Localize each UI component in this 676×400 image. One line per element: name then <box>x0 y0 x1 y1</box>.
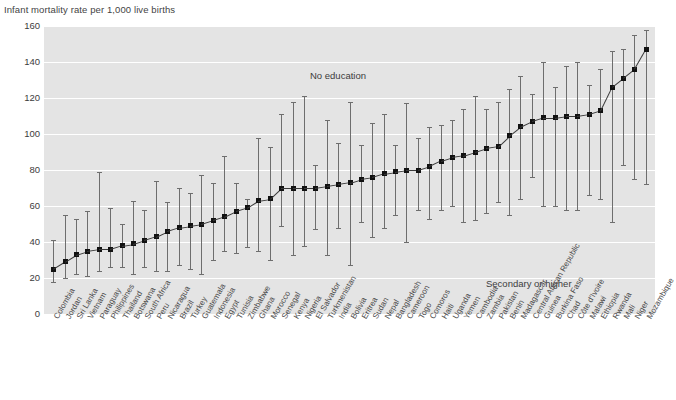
error-bar-cap <box>199 175 204 176</box>
error-bar-cap <box>450 120 455 121</box>
error-bar-cap <box>450 206 455 207</box>
error-bar-cap <box>427 219 432 220</box>
error-bar-cap <box>313 229 318 230</box>
error-bar-cap <box>85 211 90 212</box>
error-bar-cap <box>325 255 330 256</box>
y-tick-label: 40 <box>2 236 40 247</box>
error-bar-cap <box>518 76 523 77</box>
error-bar-cap <box>51 240 56 241</box>
error-bar <box>76 219 77 275</box>
error-bar <box>304 96 305 245</box>
error-bar-cap <box>507 89 512 90</box>
error-bar-cap <box>177 265 182 266</box>
error-bar-cap <box>370 237 375 238</box>
error-bar-cap <box>256 138 261 139</box>
error-bar-cap <box>108 267 113 268</box>
error-bar-cap <box>142 210 147 211</box>
y-tick-label: 80 <box>2 164 40 175</box>
error-bar-cap <box>177 188 182 189</box>
error-bar-cap <box>530 94 535 95</box>
error-bar-cap <box>610 222 615 223</box>
error-bar-cap <box>131 274 136 275</box>
error-bar <box>429 127 430 219</box>
error-bar <box>463 109 464 222</box>
error-bar <box>475 96 476 220</box>
error-bar-cap <box>302 96 307 97</box>
error-bar-cap <box>439 125 444 126</box>
error-bar-cap <box>188 269 193 270</box>
error-bar-cap <box>268 147 273 148</box>
error-bar <box>99 172 100 271</box>
error-bar-cap <box>587 195 592 196</box>
error-bar-cap <box>496 202 501 203</box>
error-bar-cap <box>439 210 444 211</box>
error-bar-cap <box>268 260 273 261</box>
error-bar-cap <box>473 220 478 221</box>
error-bar <box>532 94 533 177</box>
error-bar <box>452 120 453 206</box>
error-bar <box>258 138 259 251</box>
error-bar-cap <box>291 102 296 103</box>
error-bar-cap <box>370 123 375 124</box>
error-bar-cap <box>518 199 523 200</box>
error-bar <box>418 138 419 210</box>
y-axis-line <box>43 20 44 320</box>
error-bar <box>589 85 590 195</box>
error-bar-cap <box>222 251 227 252</box>
error-bar <box>634 35 635 179</box>
error-bar <box>236 183 237 253</box>
y-tick-label: 0 <box>2 308 40 319</box>
error-bar-cap <box>120 224 125 225</box>
error-bar <box>190 193 191 269</box>
connector-line <box>634 49 646 69</box>
error-bar-cap <box>416 138 421 139</box>
error-bar <box>509 89 510 215</box>
error-bar-cap <box>416 210 421 211</box>
error-bar-cap <box>427 127 432 128</box>
error-bar-cap <box>632 179 637 180</box>
error-bar-cap <box>393 215 398 216</box>
error-bar-cap <box>461 109 466 110</box>
error-bar <box>224 156 225 251</box>
error-bar <box>293 102 294 255</box>
error-bar-cap <box>245 247 250 248</box>
error-bar-cap <box>154 181 159 182</box>
error-bar-cap <box>245 199 250 200</box>
error-bar <box>600 69 601 199</box>
error-bar-cap <box>313 165 318 166</box>
y-tick-label: 20 <box>2 272 40 283</box>
error-bar-cap <box>291 255 296 256</box>
error-bar-cap <box>598 69 603 70</box>
error-bar-cap <box>587 85 592 86</box>
error-bar-cap <box>644 30 649 31</box>
y-tick-label: 160 <box>2 20 40 31</box>
error-bar-cap <box>541 206 546 207</box>
error-bar <box>566 66 567 210</box>
error-bar-cap <box>484 109 489 110</box>
error-bar <box>53 240 54 281</box>
error-bar <box>612 51 613 222</box>
x-axis-labels: ColombiaJordanSri LankaVietnamParaguayPh… <box>44 316 655 400</box>
error-bar-cap <box>530 177 535 178</box>
error-bar-cap <box>553 206 558 207</box>
y-tick-label: 120 <box>2 92 40 103</box>
error-bar-cap <box>461 222 466 223</box>
error-bar-cap <box>598 199 603 200</box>
error-bar-cap <box>541 62 546 63</box>
error-bar-cap <box>393 145 398 146</box>
error-bar <box>406 103 407 242</box>
error-bar-cap <box>632 35 637 36</box>
error-bar-cap <box>63 278 68 279</box>
error-bar-cap <box>382 228 387 229</box>
error-bar <box>372 123 373 236</box>
annotation-no-education: No education <box>310 70 366 81</box>
error-bar-cap <box>348 102 353 103</box>
connector-line <box>600 87 612 111</box>
error-bar-cap <box>621 49 626 50</box>
error-bar <box>87 211 88 276</box>
error-bar <box>167 202 168 270</box>
y-tick-label: 140 <box>2 56 40 67</box>
error-bar-cap <box>575 62 580 63</box>
data-point-marker[interactable] <box>644 47 649 52</box>
error-bar-cap <box>336 143 341 144</box>
